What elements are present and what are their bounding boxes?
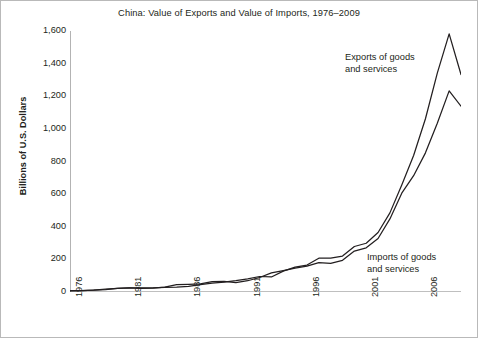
annotation-exports: Exports of goods and services xyxy=(345,51,415,75)
x-tick-label: 2006 xyxy=(429,277,439,297)
x-tick-label: 1981 xyxy=(133,277,143,297)
y-tick-label: 200 xyxy=(22,253,66,263)
x-tick-label: 1996 xyxy=(311,277,321,297)
y-tick-label: 800 xyxy=(22,156,66,166)
y-tick-label: 1,600 xyxy=(22,25,66,35)
annotation-imports: Imports of goods and services xyxy=(367,251,436,275)
y-tick-label: 1,200 xyxy=(22,90,66,100)
y-tick-label: 600 xyxy=(22,188,66,198)
y-axis-tick-labels: 02004006008001,0001,2001,4001,600 xyxy=(19,31,66,292)
x-tick-label: 1991 xyxy=(252,277,262,297)
annotation-imports-line2: and services xyxy=(367,263,436,275)
y-tick-label: 0 xyxy=(22,286,66,296)
y-tick-label: 400 xyxy=(22,221,66,231)
y-tick-label: 1,400 xyxy=(22,58,66,68)
chart-frame: China: Value of Exports and Value of Imp… xyxy=(0,0,478,338)
x-tick-label: 2001 xyxy=(370,277,380,297)
annotation-imports-line1: Imports of goods xyxy=(367,251,436,263)
annotation-exports-line2: and services xyxy=(345,63,415,75)
chart-title: China: Value of Exports and Value of Imp… xyxy=(1,8,477,18)
y-tick-label: 1,000 xyxy=(22,123,66,133)
annotation-exports-line1: Exports of goods xyxy=(345,51,415,63)
x-tick-label: 1976 xyxy=(74,277,84,297)
x-axis-tick-labels: 1976198119861991199620012006 xyxy=(70,297,461,339)
x-tick-label: 1986 xyxy=(192,277,202,297)
